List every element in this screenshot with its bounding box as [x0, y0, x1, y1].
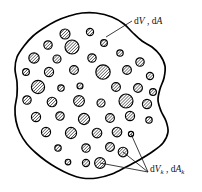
- matrix-label: dV , dA: [134, 16, 162, 26]
- inclusion-circle: [117, 50, 123, 56]
- inclusion-circle: [70, 66, 79, 75]
- inclusion-circle: [55, 145, 61, 151]
- inclusion-circle: [136, 58, 144, 66]
- inclusion-circle: [44, 67, 53, 76]
- inclusion-circle: [82, 159, 89, 166]
- inclusion-circle: [106, 143, 115, 152]
- inclusion-circle: [41, 127, 50, 136]
- inclusion-circle: [60, 29, 70, 39]
- inclusion-circle: [101, 40, 108, 47]
- inclusion-circle: [23, 69, 30, 76]
- inclusion-circle: [134, 84, 143, 93]
- inclusion-circle: [119, 94, 133, 108]
- inclusion-circle: [146, 72, 153, 79]
- inclusion-circle: [146, 117, 152, 123]
- inclusion-circle: [97, 99, 105, 107]
- inclusion-circle: [53, 55, 61, 63]
- inclusion-circle: [86, 28, 93, 35]
- inclusion-circle: [47, 97, 57, 107]
- inclusion-circle: [31, 112, 40, 121]
- inclusion-circle: [31, 80, 44, 93]
- inclusion-circle: [23, 96, 31, 104]
- inclusion-circle: [150, 89, 157, 96]
- inclusion-circle: [88, 54, 96, 62]
- rve-diagram: dV , dA dVk , dAk: [0, 0, 202, 192]
- matrix-label-var2: A: [155, 16, 162, 26]
- matrix-label-separator: ,: [145, 16, 152, 26]
- inclusion-circle: [106, 114, 115, 123]
- inclusion-circle: [77, 83, 83, 89]
- inclusion-circle: [56, 112, 64, 120]
- inclusion-circle: [112, 127, 122, 137]
- inclusion-circle: [58, 85, 64, 91]
- inclusion-label: dVk , dAk: [150, 164, 185, 175]
- inclusion-circle: [74, 96, 85, 107]
- inclusion-circle: [92, 128, 102, 138]
- inclusion-circle: [65, 127, 76, 138]
- inclusion-circle: [65, 40, 79, 54]
- inclusion-circle: [123, 66, 132, 75]
- figure-container: dV , dA dVk , dAk: [0, 0, 202, 192]
- inclusion-circle: [96, 65, 110, 79]
- body-outline: [15, 13, 168, 179]
- inclusion-circle: [29, 53, 39, 63]
- inclusion-label-separator: ,: [164, 164, 171, 174]
- inclusion-circle: [125, 111, 134, 120]
- inclusion-circle: [78, 113, 89, 124]
- inclusion-circle: [44, 41, 52, 49]
- inclusion-circle: [65, 159, 71, 165]
- inclusion-circle: [112, 83, 121, 92]
- inclusion-circle: [82, 144, 90, 152]
- inclusion-label-sub2: k: [181, 168, 185, 175]
- inclusion-circle: [142, 99, 151, 108]
